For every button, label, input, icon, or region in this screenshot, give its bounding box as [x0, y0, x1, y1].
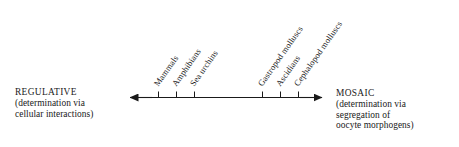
mosaic-caption: MOSAIC (determination via segregation of…	[336, 88, 414, 131]
regulative-description-line-2: cellular interactions)	[15, 109, 93, 120]
tick-marks	[159, 92, 299, 98]
mosaic-description-line-1: (determination via	[336, 99, 414, 110]
mosaic-description-line-3: oocyte morphogens)	[336, 120, 414, 131]
regulative-mosaic-figure: Mammals Amphibians Sea urchins Gastropod…	[0, 0, 459, 147]
regulative-caption: REGULATIVE (determination via cellular i…	[15, 87, 93, 119]
mosaic-heading: MOSAIC	[336, 88, 414, 99]
mosaic-description-line-2: segregation of	[336, 110, 414, 121]
regulative-description-line-1: (determination via	[15, 98, 93, 109]
regulative-heading: REGULATIVE	[15, 87, 93, 98]
